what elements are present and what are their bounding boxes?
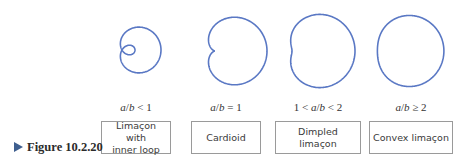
limacon-inner-loop-curve (120, 27, 161, 73)
name-text: Dimpled limaçon (279, 126, 357, 150)
name-box-dimpled: Dimpled limaçon (275, 121, 361, 154)
figure-caption: Figure 10.2.20 (14, 139, 103, 155)
dimpled-limacon-curve (291, 14, 355, 87)
triangle-marker-icon (14, 142, 23, 152)
condition-label-cardioid: a/b = 1 (191, 101, 261, 115)
condition-label-inner-loop: a/b < 1 (101, 101, 171, 115)
figure-label: Figure 10.2.20 (27, 140, 103, 155)
condition-label-convex: a/b ≥ 2 (369, 101, 453, 115)
convex-limacon-curve (377, 15, 444, 86)
name-text: Cardioid (206, 132, 245, 144)
name-text: Limaçon withinner loop (105, 120, 167, 156)
name-text: Convex limaçon (373, 132, 449, 144)
name-box-inner-loop: Limaçon withinner loop (101, 121, 171, 154)
condition-label-dimpled: 1 < a/b < 2 (275, 101, 361, 115)
limacon-curves (0, 0, 468, 100)
name-box-convex: Convex limaçon (369, 121, 453, 154)
name-box-cardioid: Cardioid (191, 121, 261, 154)
cardioid-curve (209, 17, 268, 85)
